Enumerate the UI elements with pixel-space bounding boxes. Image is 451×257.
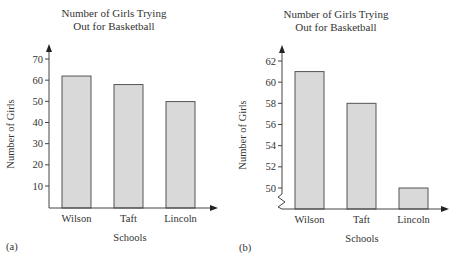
x-axis-arrow-icon — [210, 205, 218, 211]
y-tick-label: 62 — [266, 56, 277, 67]
y-tick-label: 70 — [33, 54, 44, 65]
bar-lincoln — [399, 188, 428, 209]
x-tick-label: Taft — [120, 213, 137, 224]
y-tick-label: 56 — [266, 119, 277, 130]
y-tick-label: 60 — [266, 77, 277, 88]
y-tick-label: 58 — [266, 98, 277, 109]
x-axis-label: Schools — [345, 233, 378, 244]
x-tick-label: Wilson — [295, 214, 326, 225]
y-tick-label: 54 — [266, 140, 277, 151]
chart-title: Number of Girls Trying — [284, 8, 389, 20]
x-axis-label: Schools — [113, 232, 146, 243]
bar-wilson — [62, 76, 91, 208]
x-tick-label: Lincoln — [164, 213, 197, 224]
y-tick-label: 20 — [33, 159, 44, 170]
y-tick-label: 40 — [33, 117, 44, 128]
panel-label: (a) — [6, 241, 18, 253]
chart-canvas: Number of Girls TryingOut for Basketball… — [0, 0, 451, 257]
chart-panel-b: Number of Girls TryingOut for Basketball… — [237, 8, 449, 254]
bar-taft — [114, 85, 143, 208]
x-axis-arrow-icon — [441, 206, 449, 212]
bar-wilson — [295, 72, 324, 209]
bar-taft — [347, 103, 376, 209]
chart-panel-a: Number of Girls TryingOut for Basketball… — [5, 7, 218, 253]
x-tick-label: Wilson — [62, 213, 93, 224]
chart-title: Out for Basketball — [73, 20, 154, 32]
y-tick-label: 60 — [33, 75, 44, 86]
chart-title: Number of Girls Trying — [62, 7, 167, 19]
x-tick-label: Taft — [353, 214, 370, 225]
y-tick-label: 50 — [33, 96, 44, 107]
panel-label: (b) — [239, 242, 252, 254]
chart-title: Out for Basketball — [295, 21, 376, 33]
y-axis-arrow-icon — [279, 45, 285, 53]
y-axis-arrow-icon — [46, 44, 52, 52]
y-tick-label: 10 — [33, 181, 44, 192]
y-axis-label: Number of Girls — [5, 99, 16, 168]
y-axis-label: Number of Girls — [237, 100, 248, 169]
bar-lincoln — [166, 102, 195, 208]
y-tick-label: 50 — [266, 183, 277, 194]
y-tick-label: 30 — [33, 138, 44, 149]
y-tick-label: 52 — [266, 161, 277, 172]
x-tick-label: Lincoln — [397, 214, 430, 225]
axis-break-icon — [278, 194, 285, 209]
